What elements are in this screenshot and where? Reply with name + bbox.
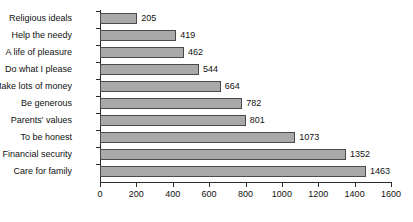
bar — [100, 13, 137, 24]
category-label: Do what I please — [0, 62, 72, 77]
bar-value-label: 801 — [250, 114, 265, 127]
bar-value-label: 462 — [188, 46, 203, 59]
bar-value-label: 419 — [180, 29, 195, 42]
bar-row: Religious ideals205 — [100, 11, 391, 28]
y-axis-tick — [96, 11, 101, 12]
bar-row: Care for family1463 — [100, 164, 391, 181]
bar-value-label: 664 — [225, 80, 240, 93]
x-axis-tick — [391, 182, 392, 187]
y-axis-tick — [96, 28, 101, 29]
bar — [100, 98, 242, 109]
bar — [100, 115, 246, 126]
y-axis-tick — [96, 45, 101, 46]
bar-chart: Religious ideals205Help the needy419A li… — [0, 0, 413, 222]
x-axis-tick — [136, 182, 137, 187]
category-label: Religious ideals — [0, 11, 72, 26]
bar-row: A life of pleasure462 — [100, 45, 391, 62]
bar — [100, 132, 295, 143]
plot-area: Religious ideals205Help the needy419A li… — [0, 0, 413, 222]
bar — [100, 81, 221, 92]
x-axis-tick — [173, 182, 174, 187]
y-axis-tick — [96, 130, 101, 131]
x-axis-tick-label: 600 — [202, 188, 217, 200]
bar-row: Financial security1352 — [100, 147, 391, 164]
x-axis-tick-label: 0 — [97, 188, 102, 200]
y-axis-tick — [96, 79, 101, 80]
x-axis-tick-label: 1000 — [272, 188, 292, 200]
bar-row: Help the needy419 — [100, 28, 391, 45]
category-label: Help the needy — [0, 28, 72, 43]
bar — [100, 149, 346, 160]
x-axis-tick — [209, 182, 210, 187]
x-axis-tick-label: 1600 — [381, 188, 401, 200]
x-axis-tick — [355, 182, 356, 187]
bar-value-label: 1463 — [370, 165, 390, 178]
bar-row: Parents' values801 — [100, 113, 391, 130]
bar-value-label: 205 — [141, 12, 156, 25]
category-label: Care for family — [0, 164, 72, 179]
bar-value-label: 1352 — [350, 148, 370, 161]
category-label: Parents' values — [0, 113, 72, 128]
y-axis-tick — [96, 62, 101, 63]
x-axis-tick — [318, 182, 319, 187]
x-axis-tick-label: 1200 — [308, 188, 328, 200]
x-axis-tick-label: 200 — [129, 188, 144, 200]
bar — [100, 64, 199, 75]
bar — [100, 47, 184, 58]
category-label: Be generous — [0, 96, 72, 111]
bar-row: To be honest1073 — [100, 130, 391, 147]
y-axis-tick — [96, 164, 101, 165]
bar — [100, 166, 366, 177]
y-axis-tick — [96, 113, 101, 114]
y-axis-tick — [96, 147, 101, 148]
x-axis-tick — [282, 182, 283, 187]
category-label: Financial security — [0, 147, 72, 162]
category-label: To be honest — [0, 130, 72, 145]
bar-value-label: 544 — [203, 63, 218, 76]
x-axis-tick-label: 1400 — [345, 188, 365, 200]
bar-row: Be generous782 — [100, 96, 391, 113]
category-label: Make lots of money — [0, 79, 72, 94]
bar-value-label: 1073 — [299, 131, 319, 144]
bar-row: Do what I please544 — [100, 62, 391, 79]
x-axis-tick — [246, 182, 247, 187]
x-axis-ticks: 02004006008001000120014001600 — [100, 182, 391, 212]
bar — [100, 30, 176, 41]
category-label: A life of pleasure — [0, 45, 72, 60]
bar-row: Make lots of money664 — [100, 79, 391, 96]
y-axis-tick — [96, 96, 101, 97]
x-axis-tick — [100, 182, 101, 187]
x-axis-tick-label: 800 — [238, 188, 253, 200]
bar-value-label: 782 — [246, 97, 261, 110]
bars-container: Religious ideals205Help the needy419A li… — [100, 11, 391, 182]
x-axis-tick-label: 400 — [165, 188, 180, 200]
